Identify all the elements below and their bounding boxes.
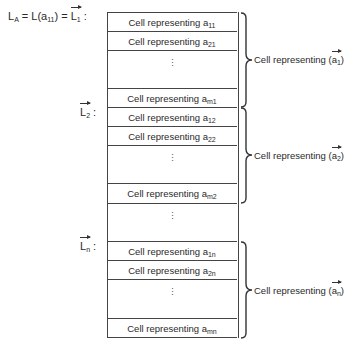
vector-sub: 2 bbox=[337, 155, 341, 162]
brace-label-text: Cell representing ( bbox=[254, 285, 332, 296]
ln-sub: n bbox=[86, 246, 90, 253]
cell-prefix: Cell representing a bbox=[128, 36, 208, 47]
ellipsis-row: ⋮ bbox=[107, 145, 237, 183]
cell-prefix: Cell representing a bbox=[127, 188, 207, 199]
cell-sub: 22 bbox=[208, 136, 216, 143]
an-vector: an bbox=[332, 285, 341, 296]
cell-prefix: Cell representing a bbox=[128, 265, 208, 276]
colon: : bbox=[93, 240, 96, 252]
eq1-sub: 11 bbox=[47, 16, 54, 23]
brace-close: ) bbox=[341, 150, 344, 161]
cell-prefix: Cell representing a bbox=[127, 93, 207, 104]
label-l2: L2 : bbox=[80, 106, 96, 118]
cell-prefix: Cell representing a bbox=[128, 131, 208, 142]
ellipsis-row-between-columns: ⋮ bbox=[107, 203, 237, 241]
brace-column-2-icon bbox=[240, 107, 254, 204]
vertical-ellipsis-icon: ⋮ bbox=[107, 290, 237, 295]
brace-close: ) bbox=[341, 285, 344, 296]
a2-vector: a2 bbox=[332, 150, 341, 161]
colon: : bbox=[93, 106, 96, 118]
cell-a12: Cell representing a12 bbox=[107, 107, 237, 126]
brace-label-text: Cell representing ( bbox=[254, 54, 332, 65]
cell-a11: Cell representing a11 bbox=[107, 12, 237, 31]
cell-a1n: Cell representing a1n bbox=[107, 241, 237, 260]
cell-prefix: Cell representing a bbox=[127, 323, 207, 334]
brace-close: ) bbox=[341, 54, 344, 65]
cell-prefix: Cell representing a bbox=[128, 17, 208, 28]
brace-label-column-1: Cell representing (a1) bbox=[254, 54, 344, 65]
vertical-ellipsis-icon: ⋮ bbox=[107, 156, 237, 161]
brace-column-n-icon bbox=[240, 241, 254, 339]
brace-label-text: Cell representing ( bbox=[254, 150, 332, 161]
l2-sub: 2 bbox=[86, 112, 90, 119]
a1-vector: a1 bbox=[332, 54, 341, 65]
cell-sub: 1n bbox=[208, 251, 216, 258]
cell-prefix: Cell representing a bbox=[128, 112, 208, 123]
brace-label-column-n: Cell representing (an) bbox=[254, 285, 344, 296]
vector-sub: n bbox=[337, 290, 341, 297]
eq1-end: ) = bbox=[55, 10, 71, 22]
l1-vector: L1 bbox=[71, 10, 81, 22]
cell-prefix: Cell representing a bbox=[128, 246, 208, 257]
vertical-ellipsis-icon: ⋮ bbox=[107, 61, 237, 66]
cell-sub: m1 bbox=[207, 98, 217, 105]
vertical-ellipsis-icon: ⋮ bbox=[107, 214, 237, 219]
cell-sub: mn bbox=[207, 328, 217, 335]
cell-sub: 11 bbox=[208, 22, 215, 29]
ellipsis-row: ⋮ bbox=[107, 279, 237, 318]
label-ln: Ln : bbox=[80, 240, 96, 252]
cell-am1: Cell representing am1 bbox=[107, 88, 237, 107]
label-la-l1: LA = L(a11) = L1 : bbox=[8, 10, 87, 22]
ln-vector: Ln bbox=[80, 240, 90, 252]
cell-a21: Cell representing a21 bbox=[107, 31, 237, 50]
brace-label-column-2: Cell representing (a2) bbox=[254, 150, 344, 161]
eq1: = L(a bbox=[19, 10, 47, 22]
ellipsis-row: ⋮ bbox=[107, 50, 237, 88]
cell-sub: m2 bbox=[207, 193, 217, 200]
colon: : bbox=[84, 10, 87, 22]
l2-vector: L2 bbox=[80, 106, 90, 118]
cell-a22: Cell representing a22 bbox=[107, 126, 237, 145]
cell-sub: 2n bbox=[208, 270, 216, 277]
vector-sub: 1 bbox=[337, 59, 341, 66]
cell-a2n: Cell representing a2n bbox=[107, 260, 237, 279]
l1-sub: 1 bbox=[77, 16, 81, 23]
cell-amn: Cell representing amn bbox=[107, 318, 237, 338]
cell-am2: Cell representing am2 bbox=[107, 183, 237, 203]
brace-column-1-icon bbox=[240, 12, 254, 108]
cell-sub: 12 bbox=[208, 117, 216, 124]
cell-sub: 21 bbox=[208, 41, 216, 48]
